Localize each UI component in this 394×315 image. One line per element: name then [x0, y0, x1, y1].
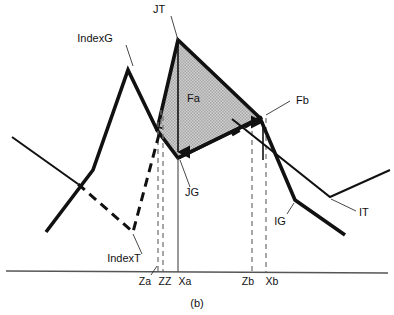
figure-caption: (b): [190, 297, 203, 309]
label-fb: Fb: [296, 94, 309, 106]
label-jg: JG: [185, 186, 199, 198]
curve-it-left: [12, 137, 78, 184]
label-ig: IG: [274, 215, 286, 227]
diagram-canvas: JT IndexG IndexT Fa JG Fb IG IT Za ZZ Xa…: [0, 0, 394, 315]
axis-tick-zz: ZZ: [159, 275, 172, 287]
leader-it: [331, 199, 356, 211]
leader-ig: [287, 203, 294, 214]
figure-b-diagram: JT IndexG IndexT Fa JG Fb IG IT Za ZZ Xa…: [0, 0, 394, 315]
label-fa: Fa: [187, 92, 201, 104]
axis-tick-xa: Xa: [179, 275, 192, 287]
leader-za: [151, 266, 157, 275]
axis-tick-za: Za: [139, 275, 151, 287]
curve-it-right: [232, 119, 390, 197]
baseline-axis: [6, 271, 388, 273]
leader-jt: [171, 16, 178, 40]
label-jt: JT: [153, 3, 166, 15]
axis-tick-zb: Zb: [242, 275, 254, 287]
leader-indext: [133, 234, 142, 254]
shaded-region-fa: [157, 40, 260, 158]
axis-tick-xb: Xb: [266, 275, 279, 287]
leader-indexg: [126, 45, 133, 66]
label-it: IT: [359, 206, 369, 218]
label-indexg: IndexG: [77, 32, 112, 44]
leader-jg: [180, 160, 190, 187]
label-indext: IndexT: [107, 252, 141, 264]
leader-fb: [266, 101, 290, 115]
curve-indext: [78, 127, 161, 232]
